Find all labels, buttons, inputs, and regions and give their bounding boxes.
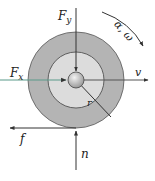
wheel-diagram: Fy Fx v r f n α, ω <box>0 0 155 181</box>
n-label: n <box>81 147 89 161</box>
hub <box>68 72 84 88</box>
fx-label: Fx <box>9 66 23 82</box>
alpha-omega-label: α, ω <box>111 18 136 44</box>
fy-label: Fy <box>57 9 72 25</box>
v-label: v <box>135 66 142 79</box>
f-label: f <box>19 132 27 146</box>
